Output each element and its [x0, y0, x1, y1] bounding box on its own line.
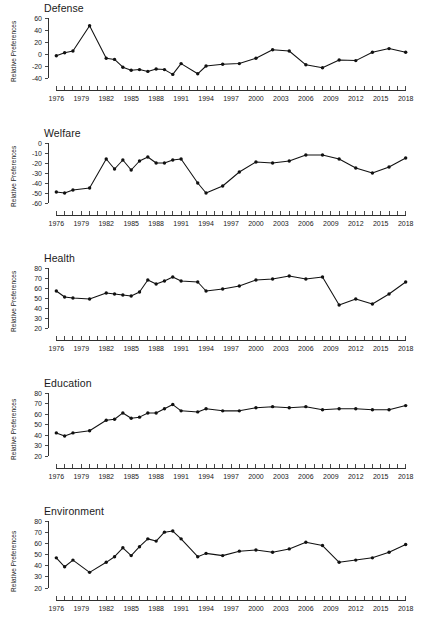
chart-panel-education: EducationRelative Preferences20304050607…	[0, 375, 423, 503]
data-point	[254, 57, 257, 60]
data-point	[171, 529, 174, 532]
x-tick-label: 1988	[148, 345, 164, 352]
series-line	[56, 26, 405, 75]
data-point	[404, 543, 407, 546]
x-tick-label: 2009	[323, 95, 339, 102]
x-tick-label: 2012	[348, 605, 364, 612]
data-point	[387, 47, 390, 50]
data-point	[404, 280, 407, 283]
data-point	[271, 277, 274, 280]
data-point	[387, 165, 390, 168]
data-point	[354, 407, 357, 410]
data-point	[121, 546, 124, 549]
data-point	[154, 282, 157, 285]
x-tick-label: 1997	[223, 95, 239, 102]
data-point	[55, 556, 58, 559]
y-tick-label: 20	[34, 453, 42, 460]
data-point	[55, 431, 58, 434]
data-point	[179, 537, 182, 540]
data-point	[354, 297, 357, 300]
x-tick-label: 1997	[223, 473, 239, 480]
data-point	[146, 278, 149, 281]
data-point	[304, 405, 307, 408]
x-tick-label: 2009	[323, 605, 339, 612]
x-tick-label: 2012	[348, 473, 364, 480]
data-point	[196, 181, 199, 184]
y-tick-label: 20	[34, 585, 42, 592]
data-point	[238, 170, 241, 173]
data-point	[129, 554, 132, 557]
x-tick-label: 2018	[398, 473, 414, 480]
data-point	[63, 51, 66, 54]
data-point	[238, 549, 241, 552]
data-point	[238, 284, 241, 287]
y-tick-label: 50	[34, 551, 42, 558]
data-point	[204, 289, 207, 292]
x-tick-label: 1997	[223, 605, 239, 612]
data-point	[71, 431, 74, 434]
data-point	[146, 155, 149, 158]
data-point	[238, 62, 241, 65]
data-point	[138, 545, 141, 548]
x-tick-label: 1976	[49, 220, 65, 227]
x-tick-label: 2006	[298, 605, 314, 612]
data-point	[154, 161, 157, 164]
data-point	[179, 409, 182, 412]
x-tick-label: 1985	[123, 345, 139, 352]
data-point	[221, 409, 224, 412]
x-tick-label: 1997	[223, 220, 239, 227]
data-point	[196, 72, 199, 75]
x-tick-label: 1979	[73, 345, 89, 352]
x-tick-label: 1976	[49, 473, 65, 480]
chart-panel-welfare: WelfareRelative Preferences-60-50-40-30-…	[0, 125, 423, 250]
data-point	[196, 280, 199, 283]
data-point	[121, 411, 124, 414]
y-tick-label: 0	[38, 51, 42, 58]
data-point	[154, 411, 157, 414]
y-tick-label: -30	[32, 170, 42, 177]
data-point	[63, 191, 66, 194]
series-line	[56, 405, 405, 437]
chart-panel-defense: DefenseRelative Preferences-40-200204060…	[0, 0, 423, 125]
data-point	[238, 409, 241, 412]
data-point	[138, 68, 141, 71]
x-tick-label: 2006	[298, 345, 314, 352]
data-point	[163, 279, 166, 282]
data-point	[304, 277, 307, 280]
y-tick-label: -20	[32, 160, 42, 167]
data-point	[138, 415, 141, 418]
data-point	[337, 407, 340, 410]
y-tick-label: -40	[32, 180, 42, 187]
data-point	[304, 541, 307, 544]
x-tick-label: 1985	[123, 220, 139, 227]
data-point	[254, 160, 257, 163]
data-point	[63, 434, 66, 437]
y-tick-label: 60	[34, 285, 42, 292]
data-point	[63, 295, 66, 298]
data-point	[321, 66, 324, 69]
data-point	[387, 551, 390, 554]
x-tick-label: 2003	[273, 220, 289, 227]
x-tick-label: 2018	[398, 220, 414, 227]
data-point	[121, 158, 124, 161]
data-point	[288, 406, 291, 409]
x-tick-label: 1982	[98, 473, 114, 480]
data-point	[288, 274, 291, 277]
data-point	[105, 57, 108, 60]
data-point	[179, 157, 182, 160]
data-point	[163, 530, 166, 533]
x-tick-label: 2009	[323, 473, 339, 480]
x-tick-label: 1976	[49, 345, 65, 352]
data-point	[63, 565, 66, 568]
data-point	[113, 418, 116, 421]
x-tick-label: 1988	[148, 95, 164, 102]
data-point	[204, 407, 207, 410]
data-point	[129, 69, 132, 72]
y-tick-label: 70	[34, 529, 42, 536]
data-point	[154, 67, 157, 70]
data-point	[105, 291, 108, 294]
data-point	[321, 544, 324, 547]
x-tick-label: 1994	[198, 345, 214, 352]
x-tick-label: 2003	[273, 95, 289, 102]
x-tick-label: 1982	[98, 605, 114, 612]
